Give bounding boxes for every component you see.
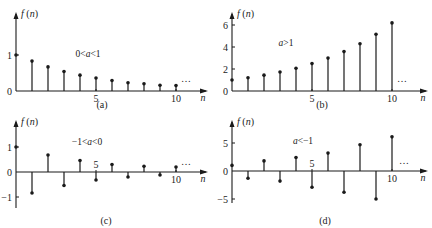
stem-marker [94, 76, 98, 80]
figure-canvas: f (n)n015100<a<1…(a)f (n)n0246510a>1…(b)… [0, 0, 432, 228]
x-tick-label: 10 [171, 174, 181, 185]
stem-marker [390, 21, 394, 25]
continuation-ellipsis: … [399, 155, 409, 166]
x-tick-label: 10 [387, 173, 397, 184]
x-axis-label: n [201, 92, 206, 103]
x-axis-label: n [201, 173, 206, 184]
stem-marker [158, 173, 162, 177]
stem-marker [94, 178, 98, 182]
stem-marker [126, 81, 130, 85]
y-tick-label: 6 [223, 20, 228, 31]
stem-marker [246, 76, 250, 80]
stem-marker [390, 135, 394, 139]
y-tick-label: 0 [223, 166, 228, 177]
stem-marker [78, 73, 82, 77]
y-tick-label: 0 [223, 86, 228, 97]
stem-marker [174, 165, 178, 169]
stem-marker [30, 59, 34, 63]
range-annotation: a<−1 [293, 136, 313, 146]
stem-marker [374, 32, 378, 36]
stem-marker [14, 145, 18, 149]
stem-marker [30, 191, 34, 195]
panel-caption: (b) [316, 99, 328, 111]
stem-marker [310, 185, 314, 189]
y-axis-label: f (n) [237, 116, 254, 128]
stem-marker [62, 70, 66, 74]
continuation-ellipsis: … [181, 156, 191, 167]
y-tick-label: 4 [223, 42, 228, 53]
stem-marker [358, 42, 362, 46]
y-tick-label: 0 [7, 86, 12, 97]
stem-marker [342, 50, 346, 54]
stem-marker [174, 84, 178, 88]
stem-marker [110, 79, 114, 83]
y-tick-label: 1 [7, 142, 12, 153]
stem-marker [142, 164, 146, 168]
stem-marker [358, 143, 362, 147]
stem-marker [326, 151, 330, 155]
y-tick-label: −1 [1, 192, 12, 203]
y-axis-arrow-icon [230, 120, 235, 127]
panel-caption: (c) [100, 215, 111, 227]
stem-marker [142, 82, 146, 86]
continuation-ellipsis: … [397, 73, 407, 84]
y-axis-label: f (n) [21, 8, 38, 20]
x-axis-label: n [421, 92, 426, 103]
stem-marker [62, 184, 66, 188]
x-tick-label: 10 [171, 93, 181, 104]
stem-marker [278, 179, 282, 183]
stem-marker [310, 62, 314, 66]
panel-caption: (d) [319, 215, 331, 227]
y-tick-label: 0 [7, 167, 12, 178]
stem-marker [374, 197, 378, 201]
stem-marker [230, 164, 234, 168]
stem-marker [230, 78, 234, 82]
panel-caption: (a) [96, 99, 107, 111]
range-annotation: −1<a<0 [72, 137, 103, 147]
stem-marker [278, 70, 282, 74]
stem-marker [78, 159, 82, 163]
stem-marker [110, 163, 114, 167]
range-annotation: 0<a<1 [76, 49, 101, 59]
y-tick-label: 1 [7, 50, 12, 61]
stem-marker [294, 66, 298, 70]
y-tick-label: 5 [223, 138, 228, 149]
continuation-ellipsis: … [181, 73, 191, 84]
y-tick-label: 2 [223, 64, 228, 75]
stem-marker [46, 153, 50, 157]
y-tick-label: −5 [217, 194, 228, 205]
y-axis-arrow-icon [14, 12, 19, 19]
stem-marker [158, 83, 162, 87]
x-tick-label: 5 [310, 158, 315, 169]
stem-marker [46, 65, 50, 69]
stem-marker [342, 190, 346, 194]
stem-marker [262, 73, 266, 77]
stem-marker [246, 176, 250, 180]
x-axis-label: n [421, 172, 426, 183]
stem-marker [294, 156, 298, 160]
stem-marker [14, 53, 18, 57]
y-axis-arrow-icon [14, 120, 19, 127]
y-axis-arrow-icon [230, 12, 235, 19]
stem-marker [126, 175, 130, 179]
stem-marker [262, 159, 266, 163]
x-tick-label: 5 [94, 159, 99, 170]
x-tick-label: 5 [310, 93, 315, 104]
range-annotation: a>1 [279, 38, 294, 48]
x-tick-label: 10 [387, 93, 397, 104]
y-axis-label: f (n) [237, 8, 254, 20]
y-axis-label: f (n) [21, 116, 38, 128]
stem-marker [326, 56, 330, 60]
